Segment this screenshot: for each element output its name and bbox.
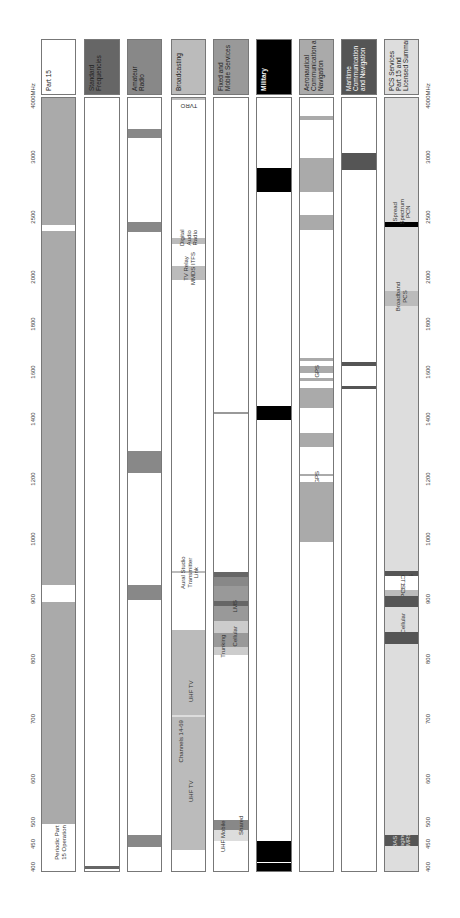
axis-tick: 800 — [425, 644, 431, 674]
axis-tick: 1200 — [30, 464, 36, 494]
band — [300, 116, 333, 120]
header-label: Part 15 — [45, 39, 52, 91]
header-label: Amateur Radio — [131, 39, 145, 91]
header-broadcasting: Broadcasting — [171, 39, 206, 95]
axis-tick: 900 — [425, 584, 431, 614]
band-label: LMS — [232, 591, 239, 621]
band — [128, 129, 161, 138]
column-standard — [84, 97, 120, 872]
band — [214, 577, 248, 586]
header-label: Military — [260, 39, 267, 91]
band-label: Periodic Part 15 Operation — [54, 813, 67, 873]
axis-tick: 2000 — [30, 262, 36, 292]
axis-tick: 600 — [425, 764, 431, 794]
axis-tick: 1600 — [425, 357, 431, 387]
header-label: Aeronautical Communication and Navigatio… — [303, 39, 324, 91]
band — [300, 158, 333, 192]
axis-tick: 900 — [30, 584, 36, 614]
column-military — [256, 97, 292, 872]
column-fixed-mobile: LMS Cellular Trunking UHF Mobile Shared — [213, 97, 249, 872]
axis-tick: 3000 — [30, 142, 36, 172]
column-part15: Periodic Part 15 Operation — [41, 97, 76, 872]
column-broadcasting: TVRO Digital Audio Radio TV Relay MMDS I… — [171, 97, 206, 872]
header-military: Military — [256, 39, 292, 95]
band-label: TVRO — [174, 102, 204, 109]
axis-tick: 2500 — [30, 202, 36, 232]
band-label: UHF Mobile — [220, 811, 227, 861]
header-standard: Standard Frequencies — [84, 39, 120, 95]
band — [214, 412, 248, 414]
axis-tick: 400 — [425, 852, 431, 882]
axis-tick: 700 — [425, 704, 431, 734]
axis-tick: 3000 — [425, 142, 431, 172]
axis-tick: 1000 — [30, 524, 36, 554]
band-label: Broadband PCS — [395, 274, 408, 319]
band-label: Spread Spectrum PCN — [392, 189, 412, 234]
band — [42, 585, 75, 602]
axis-tick: 1400 — [425, 404, 431, 434]
band — [300, 482, 333, 542]
axis-tick: 4000MHz — [30, 81, 36, 111]
header-maritime: Maritime Communication and Navigation — [341, 39, 377, 95]
header-label: PCS Services Part 15 and Licensed Summar… — [388, 39, 409, 91]
axis-tick: 800 — [30, 644, 36, 674]
band — [300, 388, 333, 408]
band-label: Trunking — [220, 631, 227, 661]
axis-tick: 2000 — [425, 262, 431, 292]
band-label: Aural Studio Transmitter Link — [180, 543, 200, 603]
band-label: UHF TV — [188, 766, 195, 816]
header-pcs: PCS Services Part 15 and Licensed Summar… — [384, 39, 419, 95]
header-label: Fixed and Mobile Services — [217, 39, 231, 91]
header-label: Maritime Communication and Navigation — [345, 39, 366, 91]
band — [128, 222, 161, 232]
header-label: Broadcasting — [175, 39, 182, 91]
band — [342, 362, 376, 366]
band — [128, 585, 161, 600]
axis-tick: 1600 — [30, 357, 36, 387]
band — [342, 386, 376, 389]
header-part15: Part 15 — [41, 39, 76, 95]
band — [257, 863, 291, 872]
band-label: Channels 14-69 — [178, 716, 185, 766]
band — [42, 225, 75, 231]
axis-tick: 1400 — [30, 404, 36, 434]
axis-tick: 1800 — [425, 309, 431, 339]
band-label: Cellular — [232, 621, 239, 651]
axis-tick: 4000MHz — [425, 81, 431, 111]
band-label: UHF TV — [188, 666, 195, 716]
band-label: GPS — [314, 358, 321, 384]
band-label: Shared — [238, 810, 245, 840]
header-label: Standard Frequencies — [88, 39, 102, 91]
column-amateur — [127, 97, 162, 872]
header-amateur: Amateur Radio — [127, 39, 162, 95]
band — [128, 835, 161, 847]
band — [257, 168, 291, 192]
band — [85, 866, 119, 869]
band-label: BAS Paging GMRS — [392, 821, 412, 863]
column-maritime — [341, 97, 377, 872]
band — [300, 433, 333, 447]
column-pcs: Spread Spectrum PCN Broadband PCS NB PCS… — [384, 97, 419, 872]
band-label: TV Relay MMDS ITFS — [183, 248, 196, 290]
column-aeronautical: GPS GPS — [299, 97, 334, 872]
axis-tick: 2500 — [425, 202, 431, 232]
axis-tick: 400 — [30, 852, 36, 882]
band — [128, 451, 161, 473]
header-fixed-mobile: Fixed and Mobile Services — [213, 39, 249, 95]
band — [300, 215, 333, 230]
header-aeronautical: Aeronautical Communication and Navigatio… — [299, 39, 334, 95]
band — [257, 841, 291, 862]
band — [172, 98, 205, 100]
axis-tick: 1000 — [425, 524, 431, 554]
axis-tick: 1200 — [425, 464, 431, 494]
band — [42, 98, 75, 824]
band — [257, 406, 291, 420]
axis-tick: 600 — [30, 764, 36, 794]
band — [342, 153, 376, 170]
axis-tick: 700 — [30, 704, 36, 734]
band — [385, 632, 418, 644]
axis-tick: 1800 — [30, 309, 36, 339]
